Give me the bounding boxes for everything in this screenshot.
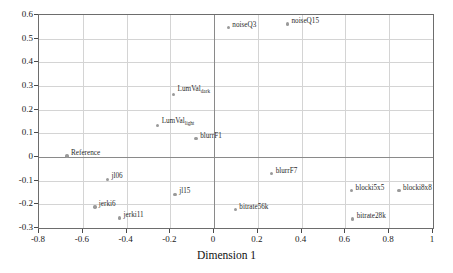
x-axis-tick [257, 229, 258, 233]
zero-axis-vertical [214, 15, 215, 228]
data-point [93, 205, 96, 208]
data-point-label: jerki11 [124, 211, 144, 219]
gridline-vertical [127, 15, 128, 228]
y-axis-tick [34, 227, 38, 228]
data-point [270, 172, 273, 175]
y-axis-tick-label: 0.2 [22, 104, 33, 114]
data-point-label: bitrate56k [239, 203, 268, 211]
data-point [173, 193, 176, 196]
y-axis-tick [34, 61, 38, 62]
data-point [350, 189, 353, 192]
gridline-horizontal [39, 39, 433, 40]
data-point [156, 124, 159, 127]
x-axis-tick [213, 229, 214, 233]
data-point-label: LumValdark [178, 85, 210, 95]
gridline-horizontal [39, 133, 433, 134]
data-point-label: blocki5x5 [356, 184, 385, 192]
y-axis-tick-label: 0.4 [22, 56, 33, 66]
zero-axis-horizontal [39, 157, 433, 158]
x-axis-tick-label: 0.6 [339, 234, 350, 244]
y-axis-tick-label: -0.3 [19, 222, 33, 232]
y-axis-tick-label: -0.1 [19, 175, 33, 185]
data-point [118, 216, 121, 219]
y-axis-tick [34, 180, 38, 181]
x-axis-tick [82, 229, 83, 233]
data-point [172, 93, 175, 96]
data-point [351, 217, 354, 220]
gridline-vertical [258, 15, 259, 228]
data-point-label: blurrF1 [200, 132, 222, 140]
data-point-label: noiseQ3 [232, 21, 256, 29]
gridline-vertical [302, 15, 303, 228]
x-axis-tick [301, 229, 302, 233]
x-axis-tick-label: -0.6 [75, 234, 89, 244]
data-point-label: blurrF7 [276, 167, 298, 175]
mds-scatter-figure: noiseQ3noiseQ15LumValdarkLumVallightblur… [0, 0, 453, 273]
data-point-label: LumVallight [162, 117, 195, 127]
data-point-label: blocki8x8 [403, 184, 432, 192]
data-point [227, 26, 230, 29]
data-point [397, 189, 400, 192]
y-axis-tick [34, 14, 38, 15]
x-axis-tick [432, 229, 433, 233]
x-axis-tick-label: 0.8 [383, 234, 394, 244]
x-axis-tick-label: 0.2 [251, 234, 262, 244]
y-axis-tick-label: 0.1 [22, 127, 33, 137]
data-point-label: bitrate28k [357, 212, 386, 220]
x-axis-tick [388, 229, 389, 233]
x-axis-tick-label: 0 [211, 234, 216, 244]
y-axis-tick-label: -0.2 [19, 198, 33, 208]
data-point-label: jerki6 [99, 200, 116, 208]
x-axis-title: Dimension 1 [0, 249, 453, 261]
gridline-vertical [345, 15, 346, 228]
gridline-vertical [83, 15, 84, 228]
y-axis-tick [34, 132, 38, 133]
data-point [286, 22, 289, 25]
data-point [234, 208, 237, 211]
x-axis-tick [344, 229, 345, 233]
x-axis-tick [169, 229, 170, 233]
gridline-horizontal [39, 86, 433, 87]
x-axis-tick-label: 1 [430, 234, 435, 244]
y-axis-tick [34, 109, 38, 110]
x-axis-tick-label: -0.8 [31, 234, 45, 244]
x-axis-tick-label: -0.4 [118, 234, 132, 244]
y-axis-tick [34, 38, 38, 39]
data-point-label: jl15 [179, 187, 190, 195]
y-axis-tick-label: 0.5 [22, 33, 33, 43]
plot-area: noiseQ3noiseQ15LumValdarkLumVallightblur… [38, 14, 434, 229]
data-point [65, 154, 68, 157]
y-axis-tick-label: 0.6 [22, 9, 33, 19]
y-axis-tick-label: 0 [29, 151, 34, 161]
x-axis-tick-label: -0.2 [162, 234, 176, 244]
data-point-label: noiseQ15 [291, 17, 319, 25]
data-point-label: Reference [71, 149, 100, 157]
y-axis-tick [34, 203, 38, 204]
x-axis-tick [126, 229, 127, 233]
y-axis-tick [34, 85, 38, 86]
y-axis-tick [34, 156, 38, 157]
gridline-horizontal [39, 62, 433, 63]
x-axis-tick [38, 229, 39, 233]
gridline-horizontal [39, 181, 433, 182]
y-axis-tick-label: 0.3 [22, 80, 33, 90]
data-point [194, 137, 197, 140]
gridline-vertical [389, 15, 390, 228]
x-axis-tick-label: 0.4 [295, 234, 306, 244]
data-point-label: jl06 [112, 172, 123, 180]
gridline-horizontal [39, 110, 433, 111]
